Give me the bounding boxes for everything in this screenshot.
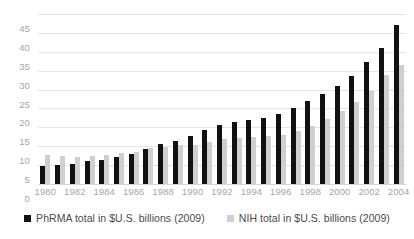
bar-group-1982 bbox=[67, 14, 82, 184]
legend-item-nih[interactable]: NIH total in $U.S. billions (2009) bbox=[227, 212, 390, 224]
bar-nih-1996 bbox=[281, 135, 286, 184]
y-axis-tick-0: 0 bbox=[25, 193, 30, 204]
x-axis-tick-1994: 1994 bbox=[244, 186, 259, 202]
y-axis-tick-25: 25 bbox=[19, 98, 30, 109]
bar-group-1993 bbox=[229, 14, 244, 184]
bar-nih-1990 bbox=[193, 145, 198, 184]
legend-label-phrma: PhRMA total in $U.S. billions (2009) bbox=[36, 212, 205, 224]
bar-group-1984 bbox=[97, 14, 112, 184]
bar-nih-1984 bbox=[104, 155, 109, 184]
bar-nih-2003 bbox=[384, 75, 389, 184]
bar-nih-1998 bbox=[310, 126, 315, 184]
bar-nih-2004 bbox=[399, 65, 404, 184]
x-axis-tick-2000: 2000 bbox=[332, 186, 347, 202]
x-axis: 1980—1982—1984—1986—1988—1990—1992—1994—… bbox=[38, 186, 406, 202]
bar-nih-2000 bbox=[340, 111, 345, 184]
legend-swatch-phrma-icon bbox=[24, 215, 31, 222]
bar-nih-1993 bbox=[237, 138, 242, 184]
bar-group-1995 bbox=[259, 14, 274, 184]
bar-group-1997 bbox=[288, 14, 303, 184]
legend-item-phrma[interactable]: PhRMA total in $U.S. billions (2009) bbox=[24, 212, 205, 224]
bar-group-1983 bbox=[82, 14, 97, 184]
bar-chart: 454035302520151050 1980—1982—1984—1986—1… bbox=[0, 0, 414, 239]
bar-group-1990 bbox=[185, 14, 200, 184]
bar-group-1985 bbox=[112, 14, 127, 184]
bar-group-2003 bbox=[377, 14, 392, 184]
x-axis-tick-1986: 1986 bbox=[126, 186, 141, 202]
y-axis-tick-15: 15 bbox=[19, 136, 30, 147]
x-axis-tick-1984: 1984 bbox=[97, 186, 112, 202]
bar-nih-1983 bbox=[90, 156, 95, 184]
bar-nih-1987 bbox=[148, 148, 153, 184]
bar-group-1992 bbox=[215, 14, 230, 184]
bar-group-1986 bbox=[126, 14, 141, 184]
x-axis-tick-1990: 1990 bbox=[185, 186, 200, 202]
y-axis-tick-30: 30 bbox=[19, 79, 30, 90]
bar-nih-1980 bbox=[45, 155, 50, 184]
y-axis-tick-10: 10 bbox=[19, 155, 30, 166]
legend-label-nih: NIH total in $U.S. billions (2009) bbox=[239, 212, 390, 224]
bar-nih-1995 bbox=[266, 136, 271, 184]
bar-series-container bbox=[38, 14, 406, 184]
bar-group-1989 bbox=[170, 14, 185, 184]
bar-nih-1999 bbox=[325, 119, 330, 184]
chart-legend: PhRMA total in $U.S. billions (2009)NIH … bbox=[0, 212, 414, 224]
bar-group-1999 bbox=[318, 14, 333, 184]
bar-group-1981 bbox=[53, 14, 68, 184]
gridline-0 bbox=[38, 184, 406, 185]
y-axis-tick-20: 20 bbox=[19, 117, 30, 128]
bar-nih-1985 bbox=[119, 153, 124, 184]
bar-nih-1994 bbox=[251, 137, 256, 184]
x-axis-tick-1982: 1982 bbox=[67, 186, 82, 202]
bar-group-1994 bbox=[244, 14, 259, 184]
x-axis-tick-1980: 1980 bbox=[38, 186, 53, 202]
bar-group-1980 bbox=[38, 14, 53, 184]
bar-nih-1986 bbox=[134, 152, 139, 184]
bar-group-1991 bbox=[200, 14, 215, 184]
bar-nih-1992 bbox=[222, 139, 227, 184]
y-axis-tick-40: 40 bbox=[19, 41, 30, 52]
bar-nih-1997 bbox=[296, 131, 301, 184]
y-axis-tick-45: 45 bbox=[19, 23, 30, 34]
bar-group-1996 bbox=[274, 14, 289, 184]
y-axis: 454035302520151050 bbox=[0, 14, 34, 184]
bar-nih-1991 bbox=[207, 142, 212, 184]
plot-area bbox=[38, 14, 406, 184]
y-axis-tick-5: 5 bbox=[25, 174, 30, 185]
bar-group-2002 bbox=[362, 14, 377, 184]
bar-nih-2002 bbox=[369, 91, 374, 184]
bar-nih-1981 bbox=[60, 156, 65, 184]
bar-group-2001 bbox=[347, 14, 362, 184]
bar-nih-1989 bbox=[178, 145, 183, 184]
x-axis-tick-1992: 1992 bbox=[215, 186, 230, 202]
bar-group-2000 bbox=[332, 14, 347, 184]
x-axis-tick-1996: 1996 bbox=[274, 186, 289, 202]
bar-group-2004 bbox=[391, 14, 406, 184]
bar-nih-2001 bbox=[354, 102, 359, 184]
x-axis-tick-1998: 1998 bbox=[303, 186, 318, 202]
bar-group-1998 bbox=[303, 14, 318, 184]
x-axis-tick-1988: 1988 bbox=[156, 186, 171, 202]
bar-nih-1988 bbox=[163, 147, 168, 184]
x-axis-tick-2002: 2002 bbox=[362, 186, 377, 202]
x-axis-tick-2004: 2004 bbox=[391, 186, 406, 202]
bar-group-1988 bbox=[156, 14, 171, 184]
legend-swatch-nih-icon bbox=[227, 215, 234, 222]
y-axis-tick-35: 35 bbox=[19, 60, 30, 71]
bar-nih-1982 bbox=[75, 157, 80, 184]
bar-group-1987 bbox=[141, 14, 156, 184]
